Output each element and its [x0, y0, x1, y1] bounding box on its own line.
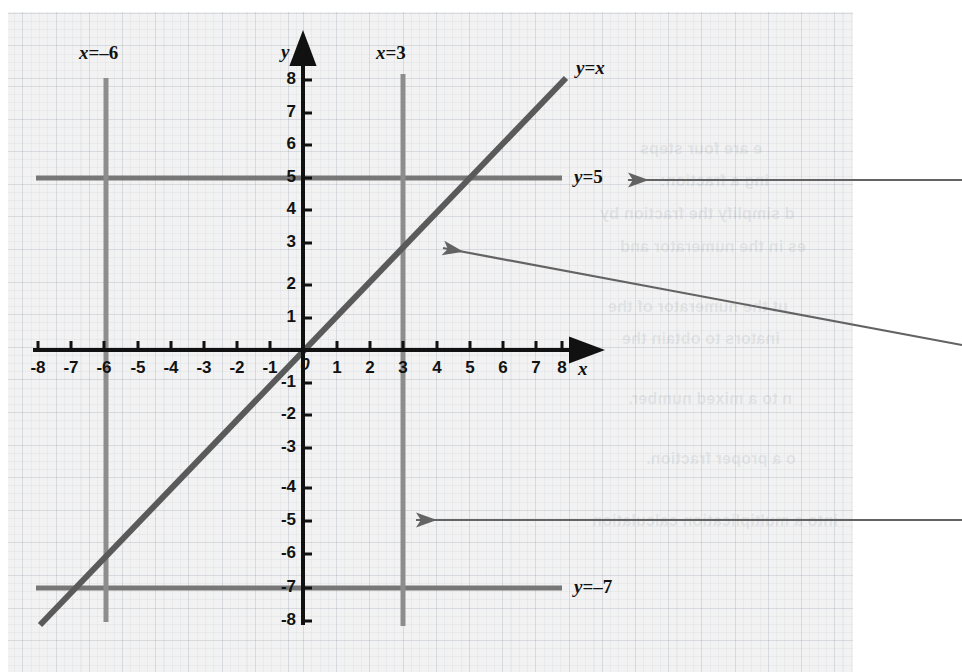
- y-tick-label: 1: [274, 307, 296, 327]
- x-tick-label: -7: [61, 358, 81, 378]
- y-tick-label: 3: [274, 232, 296, 252]
- label-x-equals-minus-6-lhs: x: [79, 42, 89, 63]
- label-y-equals-minus-7: y=–7: [574, 576, 612, 598]
- y-tick-label: -8: [266, 610, 296, 630]
- label-y-equals-5-op: =: [582, 166, 593, 187]
- label-x-equals-minus-6-op: =: [89, 42, 100, 63]
- label-y-equals-minus-7-rhs: –7: [593, 576, 612, 597]
- x-tick-label: -8: [28, 358, 48, 378]
- origin-label: 0: [297, 355, 313, 375]
- label-x-equals-minus-6-rhs: –6: [99, 42, 118, 63]
- label-x-equals-3-op: =: [386, 42, 397, 63]
- x-tick-label: 4: [429, 358, 445, 378]
- x-tick-label: 6: [495, 358, 511, 378]
- label-y-equals-5: y=5: [574, 166, 603, 188]
- y-tick-label: -3: [266, 437, 296, 457]
- x-tick-label: 5: [462, 358, 478, 378]
- x-tick-label: 8: [554, 358, 570, 378]
- x-tick-label: -2: [227, 358, 247, 378]
- y-tick-label: 5: [274, 167, 296, 187]
- y-tick-label: -7: [266, 577, 296, 597]
- graph-canvas: [0, 0, 962, 672]
- x-axis-name: x: [578, 358, 588, 380]
- y-axis-name: y: [281, 41, 289, 63]
- y-tick-label: -1: [272, 372, 296, 392]
- x-tick-label: 1: [329, 358, 345, 378]
- graph-figure: e are four steps ing a fraction: d simpl…: [0, 0, 962, 672]
- x-tick-label: -5: [128, 358, 148, 378]
- y-tick-label: -5: [266, 510, 296, 530]
- leader-line-to-y-equals-x: [443, 248, 962, 345]
- x-tick-label: -4: [161, 358, 181, 378]
- x-tick-label: -3: [194, 358, 214, 378]
- y-tick-label: -2: [266, 404, 296, 424]
- y-tick-label: -4: [266, 477, 296, 497]
- label-y-equals-minus-7-op: =: [582, 576, 593, 597]
- y-tick-label: 7: [274, 102, 296, 122]
- x-tick-label: 2: [362, 358, 378, 378]
- label-y-equals-5-rhs: 5: [593, 166, 603, 187]
- y-tick-label: -6: [266, 543, 296, 563]
- label-x-equals-3-rhs: 3: [396, 42, 406, 63]
- y-tick-label: 2: [274, 274, 296, 294]
- x-tick-label: 7: [528, 358, 544, 378]
- label-y-equals-x-rhs: x: [595, 57, 605, 78]
- y-tick-label: 8: [274, 69, 296, 89]
- x-tick-label: 3: [395, 358, 411, 378]
- label-x-equals-minus-6: x=–6: [79, 42, 118, 64]
- label-x-equals-3: x=3: [376, 42, 406, 64]
- label-x-equals-3-lhs: x: [376, 42, 386, 63]
- y-tick-label: 6: [274, 134, 296, 154]
- x-tick-label: -6: [94, 358, 114, 378]
- y-tick-label: 4: [274, 199, 296, 219]
- label-y-equals-x: y=x: [576, 57, 605, 79]
- label-y-equals-x-op: =: [584, 57, 595, 78]
